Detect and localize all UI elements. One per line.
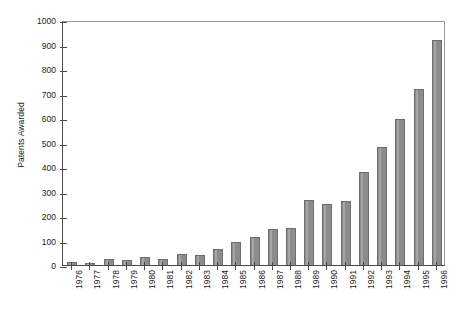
x-tick-mark bbox=[290, 262, 291, 270]
y-tick-label: 500 bbox=[26, 139, 56, 148]
x-tick-mark bbox=[71, 262, 72, 270]
x-tick-label: 1977 bbox=[93, 270, 102, 289]
y-tick-label: 800 bbox=[26, 66, 56, 75]
x-tick-label: 1991 bbox=[349, 270, 358, 289]
x-tick-mark bbox=[399, 262, 400, 270]
x-tick-mark bbox=[254, 262, 255, 270]
x-tick-mark bbox=[235, 262, 236, 270]
x-tick-label: 1987 bbox=[276, 270, 285, 289]
x-tick-mark bbox=[272, 262, 273, 270]
x-axis-tick-labels: 1976197719781979198019811982198319841985… bbox=[62, 270, 445, 318]
y-tick-mark bbox=[60, 243, 67, 244]
bar bbox=[213, 249, 223, 265]
y-tick-mark bbox=[60, 120, 67, 121]
y-tick-mark bbox=[60, 267, 67, 268]
x-tick-label: 1978 bbox=[112, 270, 121, 289]
x-tick-mark bbox=[126, 262, 127, 270]
patents-awarded-bar-chart: Patents Awarded 010020030040050060070080… bbox=[0, 0, 462, 318]
x-tick-mark bbox=[199, 262, 200, 270]
bar bbox=[377, 147, 387, 265]
y-tick-label: 700 bbox=[26, 90, 56, 99]
x-tick-mark bbox=[144, 262, 145, 270]
x-tick-label: 1980 bbox=[148, 270, 157, 289]
x-tick-label: 1990 bbox=[330, 270, 339, 289]
y-axis-title-label: Patents Awarded bbox=[16, 102, 26, 168]
bar bbox=[250, 237, 260, 265]
y-tick-mark bbox=[60, 71, 67, 72]
x-tick-mark bbox=[162, 262, 163, 270]
x-tick-mark bbox=[418, 262, 419, 270]
x-tick-mark bbox=[308, 262, 309, 270]
bar bbox=[67, 262, 77, 265]
x-tick-label: 1981 bbox=[166, 270, 175, 289]
x-tick-mark bbox=[345, 262, 346, 270]
x-tick-mark bbox=[108, 262, 109, 270]
x-tick-label: 1989 bbox=[312, 270, 321, 289]
y-tick-label: 400 bbox=[26, 164, 56, 173]
x-tick-mark bbox=[363, 262, 364, 270]
x-tick-mark bbox=[181, 262, 182, 270]
bar bbox=[341, 201, 351, 265]
x-tick-mark bbox=[217, 262, 218, 270]
x-tick-label: 1995 bbox=[422, 270, 431, 289]
bar bbox=[359, 172, 369, 265]
bars-layer bbox=[63, 22, 444, 265]
y-tick-label: 200 bbox=[26, 213, 56, 222]
y-tick-label: 100 bbox=[26, 237, 56, 246]
y-tick-label: 0 bbox=[26, 262, 56, 271]
x-tick-label: 1976 bbox=[75, 270, 84, 289]
x-tick-label: 1986 bbox=[258, 270, 267, 289]
y-tick-label: 300 bbox=[26, 188, 56, 197]
y-axis-tick-labels: 01002003004005006007008009001000 bbox=[26, 0, 56, 318]
y-tick-mark bbox=[60, 218, 67, 219]
x-tick-mark bbox=[89, 262, 90, 270]
x-tick-mark bbox=[436, 262, 437, 270]
bar bbox=[414, 89, 424, 265]
y-tick-mark bbox=[60, 47, 67, 48]
bar bbox=[304, 200, 314, 265]
bar bbox=[85, 263, 95, 265]
x-tick-label: 1988 bbox=[294, 270, 303, 289]
x-tick-label: 1979 bbox=[130, 270, 139, 289]
y-tick-mark bbox=[60, 22, 67, 23]
x-tick-label: 1982 bbox=[185, 270, 194, 289]
bar bbox=[104, 259, 114, 265]
bar bbox=[231, 242, 241, 265]
x-tick-label: 1992 bbox=[367, 270, 376, 289]
x-tick-label: 1996 bbox=[440, 270, 449, 289]
y-tick-mark bbox=[60, 169, 67, 170]
y-tick-label: 600 bbox=[26, 115, 56, 124]
bar bbox=[177, 254, 187, 265]
bar bbox=[195, 255, 205, 265]
bar bbox=[395, 119, 405, 266]
x-tick-label: 1984 bbox=[221, 270, 230, 289]
x-tick-mark bbox=[326, 262, 327, 270]
bar bbox=[268, 229, 278, 265]
x-tick-label: 1985 bbox=[239, 270, 248, 289]
bar bbox=[286, 228, 296, 265]
y-tick-mark bbox=[60, 96, 67, 97]
x-tick-label: 1994 bbox=[403, 270, 412, 289]
y-tick-label: 900 bbox=[26, 41, 56, 50]
bar bbox=[322, 204, 332, 265]
y-tick-mark bbox=[60, 145, 67, 146]
y-tick-label: 1000 bbox=[26, 17, 56, 26]
bar bbox=[140, 257, 150, 265]
bar bbox=[158, 259, 168, 265]
x-axis-tick-marks bbox=[62, 266, 445, 267]
y-tick-mark bbox=[60, 194, 67, 195]
x-tick-label: 1993 bbox=[385, 270, 394, 289]
x-tick-label: 1983 bbox=[203, 270, 212, 289]
plot-area bbox=[62, 21, 445, 266]
bar bbox=[122, 260, 132, 265]
bar bbox=[432, 40, 442, 265]
x-tick-mark bbox=[381, 262, 382, 270]
